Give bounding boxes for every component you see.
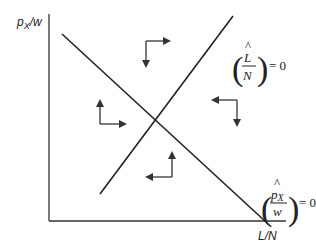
right-paren: ) (288, 190, 299, 228)
l-n-curve-label: ( ^ L N ) = 0 (232, 38, 286, 88)
x-axis-label: L/N (258, 229, 277, 243)
left-paren: ( (232, 50, 243, 88)
denominator-w: w (273, 204, 282, 219)
direction-arrows-bottom (147, 153, 172, 177)
direction-arrows-left (100, 101, 125, 124)
numerator-L: L (243, 50, 251, 65)
direction-arrows-right (213, 100, 237, 125)
equals-zero: = 0 (299, 195, 316, 210)
px-w-curve-label: ( ^ pX w ) = 0 (261, 175, 316, 228)
numerator-px: pX (270, 187, 285, 203)
right-paren: ) (257, 50, 268, 88)
equals-zero: = 0 (269, 58, 286, 73)
y-axis-label: pX/w (16, 15, 43, 31)
direction-arrows-top (146, 41, 169, 66)
phase-diagram: pX/w L/N ( ^ L N ) = 0 ( ^ pX w ) = 0 (0, 0, 316, 248)
l-n-stationary-line (100, 16, 233, 194)
denominator-N: N (242, 68, 253, 83)
